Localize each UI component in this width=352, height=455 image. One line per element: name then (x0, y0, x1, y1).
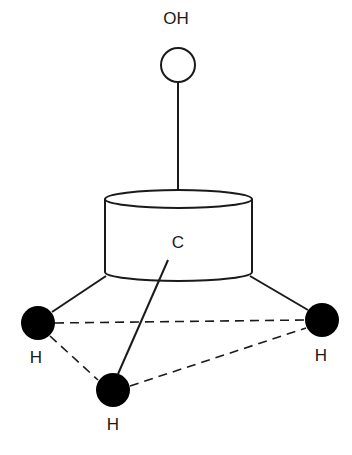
hydrogen-atom-bottom (96, 373, 130, 407)
oh-label: OH (163, 9, 189, 28)
hydrogen-label-right: H (315, 346, 327, 365)
molecule-diagram: OH C H H H (0, 0, 352, 455)
dashed-hydrogen-triangle (50, 320, 306, 386)
hydrogen-atom-right (305, 303, 339, 337)
hydrogen-label-left: H (30, 348, 42, 367)
oxygen-atom (161, 48, 195, 82)
hydrogen-atom-left (21, 306, 55, 340)
carbon-label: C (172, 233, 184, 252)
hydrogen-label-bottom: H (107, 415, 119, 434)
